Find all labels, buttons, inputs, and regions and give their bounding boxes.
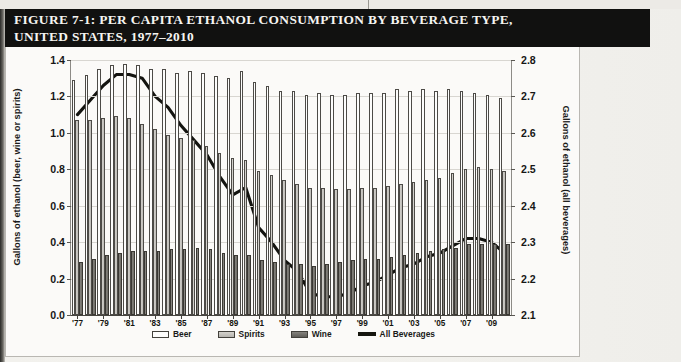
x-axis-label: '77 [72,319,83,328]
figure-title-line-1: FIGURE 7-1: PER CAPITA ETHANOL CONSUMPTI… [14,12,642,29]
bar-group[interactable] [395,60,407,315]
bar-wine[interactable] [338,262,342,315]
bar-group[interactable] [292,60,304,315]
bar-wine[interactable] [351,260,355,315]
bar-group[interactable] [240,60,252,315]
x-axis-label: '09 [486,319,497,328]
legend-item-all-beverages[interactable]: All Beverages [358,329,435,339]
bar-group[interactable] [499,60,511,315]
bar-group[interactable] [486,60,498,315]
bar-wine[interactable] [286,264,290,315]
bar-group[interactable] [123,60,135,315]
bar-wine[interactable] [390,257,394,315]
bar-group[interactable] [266,60,278,315]
y-axis-right-label: 2.6 [521,128,553,138]
bar-group[interactable] [356,60,368,315]
y-axis-right-tick [511,206,515,207]
bar-wine[interactable] [170,249,174,315]
bar-wine[interactable] [403,255,407,315]
x-axis-label: '89 [227,319,238,328]
x-axis-label: '97 [331,319,342,328]
y-axis-left-label: 1.0 [35,128,65,138]
bar-wine[interactable] [312,266,316,315]
bar-wine[interactable] [506,244,510,315]
bar-group[interactable] [343,60,355,315]
bar-wine[interactable] [157,251,161,315]
bar-wine[interactable] [105,255,109,315]
bar-group[interactable] [149,60,161,315]
bar-wine[interactable] [467,244,471,315]
bar-wine[interactable] [364,259,368,315]
bar-wine[interactable] [454,248,458,315]
bar-wine[interactable] [325,264,329,315]
legend-swatch-icon [152,331,169,338]
bar-group[interactable] [227,60,239,315]
bar-group[interactable] [473,60,485,315]
bar-group[interactable] [305,60,317,315]
bar-group[interactable] [369,60,381,315]
bar-group[interactable] [447,60,459,315]
bar-wine[interactable] [247,255,251,315]
y-axis-left-tick [67,60,71,61]
bar-group[interactable] [97,60,109,315]
x-axis-label: '95 [305,319,316,328]
plot-area: 0.02.10.22.20.42.30.62.40.82.51.02.61.22… [70,60,512,316]
bar-group[interactable] [408,60,420,315]
bar-group[interactable] [110,60,122,315]
legend-item-beer[interactable]: Beer [152,329,192,339]
bar-wine[interactable] [442,249,446,315]
y-axis-left-label: 1.2 [35,91,65,101]
bar-wine[interactable] [416,253,420,315]
bar-wine[interactable] [234,255,238,315]
bar-group[interactable] [85,60,97,315]
bar-group[interactable] [382,60,394,315]
x-axis-label: '87 [201,319,212,328]
bar-group[interactable] [162,60,174,315]
bar-wine[interactable] [222,253,226,315]
bar-group[interactable] [214,60,226,315]
x-axis-label: '05 [434,319,445,328]
y-axis-left-label: 0.4 [35,237,65,247]
bar-wine[interactable] [493,244,497,315]
figure-title-line-2: UNITED STATES, 1977–2010 [14,29,642,46]
y-axis-left-tick [67,315,71,316]
legend-swatch-icon [358,332,376,335]
bar-group[interactable] [421,60,433,315]
bar-group[interactable] [201,60,213,315]
bar-wine[interactable] [480,244,484,315]
legend-item-wine[interactable]: Wine [291,329,332,339]
legend-item-spirits[interactable]: Spirits [218,329,265,339]
bar-group[interactable] [175,60,187,315]
bar-wine[interactable] [131,251,135,315]
bar-group[interactable] [330,60,342,315]
bar-wine[interactable] [79,262,83,315]
bar-wine[interactable] [377,259,381,315]
bar-group[interactable] [279,60,291,315]
bar-wine[interactable] [209,249,213,315]
y-axis-left-title: Gallons of ethanol (beer, wine or spirit… [12,82,22,272]
chart-legend: BeerSpiritsWineAll Beverages [6,329,581,339]
bar-group[interactable] [253,60,265,315]
y-axis-left-tick [67,169,71,170]
bar-wine[interactable] [118,253,122,315]
y-axis-left-label: 0.8 [35,164,65,174]
bar-group[interactable] [434,60,446,315]
y-axis-right-tick [511,315,515,316]
bar-group[interactable] [460,60,472,315]
bar-group[interactable] [317,60,329,315]
bar-wine[interactable] [260,260,264,315]
bar-group[interactable] [72,60,84,315]
figure-panel: Gallons of ethanol (beer, wine or spirit… [5,47,580,357]
bar-group[interactable] [188,60,200,315]
legend-label: All Beverages [380,329,435,339]
bar-wine[interactable] [196,248,200,315]
bar-wine[interactable] [92,259,96,315]
bar-wine[interactable] [429,251,433,315]
legend-label: Beer [173,329,192,339]
x-axis-label: '01 [383,319,394,328]
bar-wine[interactable] [144,251,148,315]
bar-wine[interactable] [183,249,187,315]
bar-group[interactable] [136,60,148,315]
bar-wine[interactable] [299,264,303,315]
bar-wine[interactable] [273,262,277,315]
